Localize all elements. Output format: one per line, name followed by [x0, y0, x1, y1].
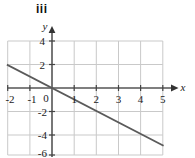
coordinate-plane-svg: -2 -1 1 2 3 4 5 0 4 2 -2 -4 -6 x y [0, 0, 195, 158]
y-axis-arrow-icon [49, 26, 56, 33]
y-tick-label--4: -4 [38, 129, 48, 141]
x-tick-label-5: 5 [160, 93, 166, 105]
x-tick-label-1: 1 [71, 93, 77, 105]
y-axis-label: y [42, 20, 48, 32]
x-axis-label: x [180, 81, 186, 93]
y-tick-label--6: -6 [38, 147, 48, 158]
x-tick-label--2: -2 [5, 93, 14, 105]
x-axis-arrow-icon [171, 85, 179, 92]
x-tick-label-3: 3 [116, 93, 122, 105]
x-tick-label--1: -1 [27, 93, 36, 105]
y-axis [49, 26, 56, 157]
x-tick-label-2: 2 [94, 93, 100, 105]
x-axis [8, 85, 179, 92]
y-tick-label--2: -2 [38, 106, 47, 118]
origin-label: 0 [43, 92, 49, 104]
y-tick-label-4: 4 [40, 35, 46, 47]
plotted-line [8, 65, 163, 145]
graph-figure: iii [0, 0, 195, 158]
y-tick-label-2: 2 [40, 59, 46, 71]
x-tick-label-4: 4 [138, 93, 144, 105]
